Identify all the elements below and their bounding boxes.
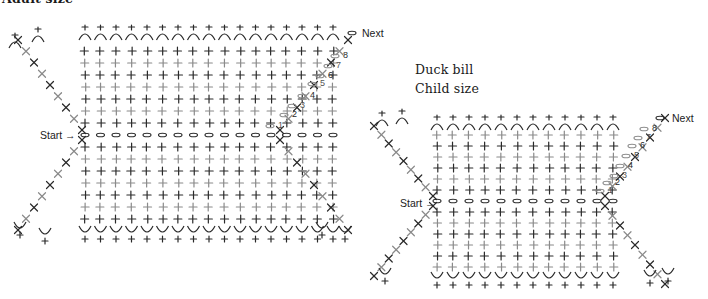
crochet-diagram: 1234567812345678 [0,0,708,299]
svg-text:4: 4 [628,160,633,170]
svg-text:1: 1 [278,120,283,130]
svg-text:5: 5 [320,78,325,88]
svg-text:7: 7 [336,60,341,70]
svg-text:8: 8 [652,123,657,133]
svg-text:1: 1 [608,185,613,195]
svg-text:3: 3 [300,100,305,110]
svg-text:3: 3 [622,170,627,180]
svg-text:6: 6 [328,70,333,80]
svg-text:5: 5 [634,150,639,160]
svg-text:4: 4 [310,90,315,100]
svg-text:8: 8 [343,50,348,60]
svg-text:2: 2 [615,177,620,187]
svg-text:6: 6 [640,140,645,150]
svg-text:2: 2 [292,109,297,119]
svg-text:7: 7 [646,132,651,142]
